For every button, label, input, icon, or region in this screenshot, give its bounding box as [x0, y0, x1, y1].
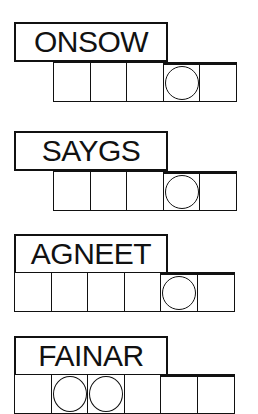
scrambled-word: ONSOW	[14, 22, 168, 62]
circle-icon	[165, 66, 199, 100]
letter-slot[interactable]	[53, 171, 91, 211]
answer-slots	[53, 62, 237, 102]
letter-slot[interactable]	[90, 171, 128, 211]
scrambled-word: FAINAR	[14, 336, 168, 376]
letter-slot[interactable]	[51, 272, 89, 312]
letter-slot[interactable]	[199, 171, 237, 211]
letter-slot[interactable]	[199, 62, 237, 102]
letter-slot[interactable]	[53, 62, 91, 102]
letter-slot[interactable]	[126, 171, 164, 211]
circled-letter-slot[interactable]	[163, 62, 201, 102]
scrambled-word: SAYGS	[14, 131, 168, 171]
letter-slot[interactable]	[160, 374, 198, 414]
circle-icon	[53, 376, 87, 412]
circle-icon	[162, 276, 196, 310]
letter-slot[interactable]	[124, 374, 162, 414]
letter-slot[interactable]	[197, 374, 235, 414]
answer-slots	[14, 374, 235, 414]
letter-slot[interactable]	[124, 272, 162, 312]
letter-slot[interactable]	[87, 272, 125, 312]
circled-letter-slot[interactable]	[160, 272, 198, 312]
letter-slot[interactable]	[90, 62, 128, 102]
letter-slot[interactable]	[197, 272, 235, 312]
circled-letter-slot[interactable]	[51, 374, 89, 414]
circle-icon	[165, 175, 199, 209]
circle-icon	[89, 376, 123, 412]
letter-slot[interactable]	[126, 62, 164, 102]
letter-slot[interactable]	[14, 374, 52, 414]
answer-slots	[14, 272, 235, 312]
answer-slots	[53, 171, 237, 211]
circled-letter-slot[interactable]	[163, 171, 201, 211]
letter-slot[interactable]	[14, 272, 52, 312]
scrambled-word: AGNEET	[14, 234, 168, 274]
circled-letter-slot[interactable]	[87, 374, 125, 414]
